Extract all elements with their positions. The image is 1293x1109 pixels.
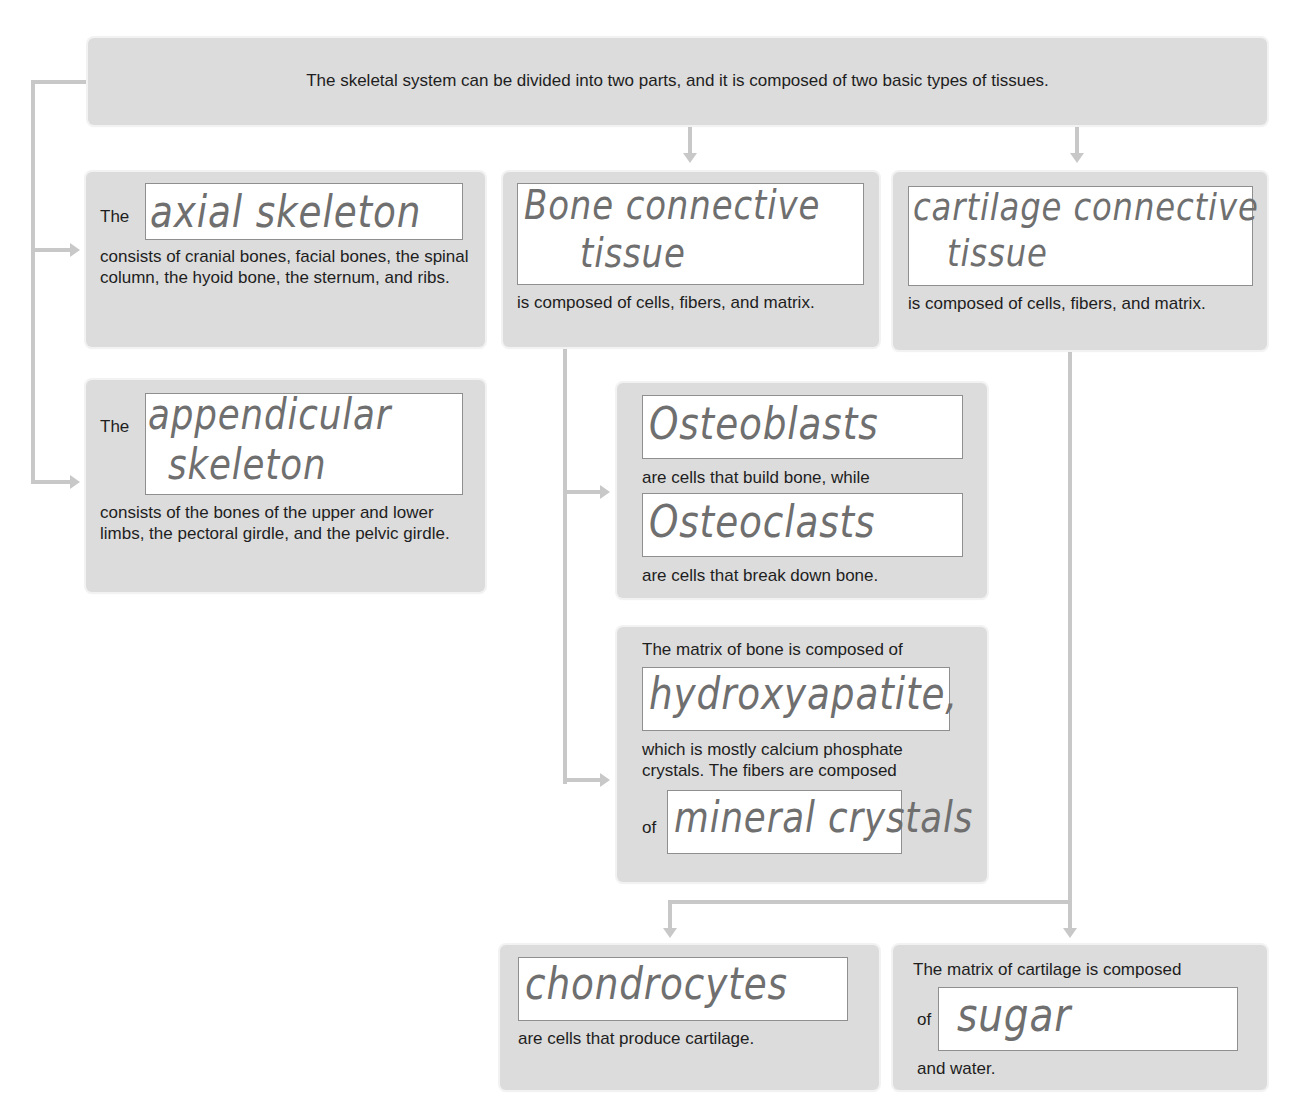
chondrocytes-description: are cells that produce cartilage.	[518, 1028, 754, 1049]
connector-chondro-down	[668, 900, 672, 930]
connector-cartilage-vertical	[1068, 350, 1072, 930]
appendicular-prefix: The	[100, 416, 129, 437]
axial-answer: axial skeleton	[150, 186, 421, 237]
cartilage-tissue-box: cartilage connective tissue is composed …	[893, 172, 1267, 350]
cartilage-matrix-answer-field[interactable]: sugar	[938, 987, 1238, 1051]
cartilage-matrix-prefix: of	[917, 1009, 931, 1030]
axial-skeleton-box: The axial skeleton consists of cranial b…	[86, 172, 485, 347]
cartilage-tissue-answer-line2: tissue	[947, 231, 1048, 275]
arrow-right-icon	[70, 243, 80, 257]
axial-prefix: The	[100, 206, 129, 227]
cartilage-tissue-description: is composed of cells, fibers, and matrix…	[908, 293, 1238, 314]
bone-matrix-answer-field[interactable]: hydroxyapatite,	[642, 667, 950, 731]
cartilage-matrix-intro: The matrix of cartilage is composed	[913, 959, 1181, 980]
osteoblasts-answer-field[interactable]: Osteoblasts	[642, 395, 963, 459]
osteoclasts-answer-field[interactable]: Osteoclasts	[642, 493, 963, 557]
bone-tissue-answer-field[interactable]: Bone connective tissue	[517, 183, 864, 285]
connector-left-vertical	[31, 80, 35, 484]
chondrocytes-answer-field[interactable]: chondrocytes	[518, 957, 848, 1021]
connector-appendicular-h	[33, 480, 73, 484]
osteoclasts-answer: Osteoclasts	[649, 496, 875, 547]
cartilage-tissue-answer-line1: cartilage connective	[913, 185, 1259, 229]
appendicular-answer-line2: skeleton	[168, 440, 326, 489]
title-text: The skeletal system can be divided into …	[88, 71, 1267, 91]
arrow-right-icon	[70, 475, 80, 489]
osteoblasts-answer: Osteoblasts	[649, 398, 879, 449]
arrow-down-icon	[1063, 928, 1077, 938]
osteoclasts-description: are cells that break down bone.	[642, 565, 878, 586]
bone-tissue-description: is composed of cells, fibers, and matrix…	[517, 292, 847, 313]
bone-matrix-description: which is mostly calcium phosphate crysta…	[642, 739, 962, 781]
cartilage-matrix-suffix: and water.	[917, 1058, 995, 1079]
connector-left-stub	[33, 80, 88, 84]
bone-matrix-box: The matrix of bone is composed of hydrox…	[617, 627, 987, 882]
bone-tissue-answer-line2: tissue	[580, 230, 686, 276]
chondrocytes-answer: chondrocytes	[525, 958, 788, 1009]
arrow-right-icon	[600, 773, 610, 787]
connector-bone-down	[688, 125, 692, 155]
connector-bone-matrix-h	[565, 778, 603, 782]
title-box: The skeletal system can be divided into …	[88, 38, 1267, 125]
connector-axial-h	[33, 248, 73, 252]
arrow-down-icon	[663, 928, 677, 938]
cartilage-matrix-box: The matrix of cartilage is composed of s…	[893, 945, 1267, 1090]
arrow-down-icon	[683, 153, 697, 163]
appendicular-skeleton-box: The appendicular skeleton consists of th…	[86, 380, 485, 592]
cartilage-cells-box: chondrocytes are cells that produce cart…	[500, 945, 879, 1090]
bone-fibers-answer: mineral crystals	[674, 793, 973, 842]
connector-cartilage-h	[668, 900, 1070, 904]
appendicular-answer-line1: appendicular	[148, 390, 391, 439]
connector-cartilage-down	[1075, 125, 1079, 155]
bone-fibers-answer-field[interactable]: mineral crystals	[667, 790, 902, 854]
bone-matrix-answer: hydroxyapatite,	[649, 668, 958, 719]
cartilage-tissue-answer-field[interactable]: cartilage connective tissue	[908, 186, 1253, 286]
bone-cells-box: Osteoblasts are cells that build bone, w…	[617, 383, 987, 598]
arrow-down-icon	[1070, 153, 1084, 163]
bone-tissue-box: Bone connective tissue is composed of ce…	[503, 172, 879, 347]
bone-matrix-intro: The matrix of bone is composed of	[642, 639, 903, 660]
connector-bone-cells-h	[565, 490, 603, 494]
bone-tissue-answer-line1: Bone connective	[524, 182, 820, 228]
connector-bone-vertical	[563, 347, 567, 784]
arrow-right-icon	[600, 485, 610, 499]
osteoblasts-description: are cells that build bone, while	[642, 467, 870, 488]
appendicular-description: consists of the bones of the upper and l…	[100, 502, 475, 544]
axial-answer-field[interactable]: axial skeleton	[145, 183, 463, 240]
bone-fibers-prefix: of	[642, 817, 656, 838]
cartilage-matrix-answer: sugar	[957, 988, 1071, 1042]
appendicular-answer-field[interactable]: appendicular skeleton	[145, 393, 463, 495]
axial-description: consists of cranial bones, facial bones,…	[100, 246, 475, 288]
